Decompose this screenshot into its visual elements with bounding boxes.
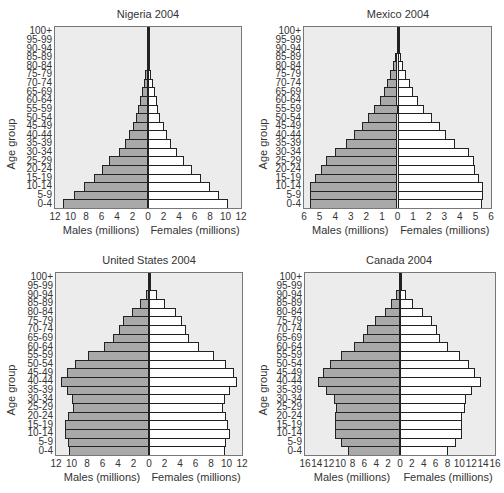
x-tick-label: 6 <box>301 211 307 222</box>
male-bar <box>335 420 400 430</box>
age-group-label: 0-4 <box>287 199 301 209</box>
male-bar <box>341 351 400 361</box>
female-bar <box>148 199 228 209</box>
male-bar <box>390 70 397 80</box>
x-tick-label: 3 <box>348 211 354 222</box>
male-bar <box>68 438 149 448</box>
center-axis-line <box>398 27 399 208</box>
age-group-label: 10-14 <box>276 428 302 438</box>
age-group-label: 95-99 <box>27 281 53 291</box>
age-group-label: 30-34 <box>27 394 53 404</box>
male-bar <box>334 394 401 404</box>
age-group-label: 45-49 <box>27 368 53 378</box>
age-group-label: 30-34 <box>26 147 52 157</box>
age-group-label: 35-39 <box>276 385 302 395</box>
female-bar <box>398 113 432 123</box>
x-tick-label: 0 <box>145 211 151 222</box>
age-group-label: 65-69 <box>27 333 53 343</box>
male-bar <box>362 122 398 132</box>
male-bar <box>125 139 148 149</box>
age-group-label: 50-54 <box>276 359 302 369</box>
male-bar <box>310 182 397 192</box>
chart-title: United States 2004 <box>102 254 196 266</box>
x-tick-label: 4 <box>114 211 120 222</box>
female-bar <box>149 360 226 370</box>
female-bar <box>400 299 413 309</box>
x-axis-title-males: Males (millions) <box>63 224 139 236</box>
male-bar <box>67 386 149 396</box>
age-group-label: 60-64 <box>26 95 52 105</box>
female-bar <box>149 290 157 300</box>
female-bar <box>148 156 184 166</box>
age-group-label: 100+ <box>29 26 52 36</box>
female-bar <box>149 386 230 396</box>
pyramid-panel: United States 20040-45-910-1415-1920-242… <box>0 252 252 493</box>
age-group-label: 70-74 <box>26 78 52 88</box>
age-group-label: 25-29 <box>26 156 52 166</box>
male-bar <box>341 438 400 448</box>
x-tick-label: 8 <box>445 458 451 469</box>
age-group-label: 85-89 <box>27 298 53 308</box>
chart-title: Canada 2004 <box>366 254 432 266</box>
male-bar <box>368 113 398 123</box>
x-tick-label: 2 <box>161 211 167 222</box>
female-bar <box>149 403 223 413</box>
x-tick-label: 16 <box>299 458 310 469</box>
age-group-label: 10-14 <box>27 428 53 438</box>
x-tick-label: 4 <box>421 458 427 469</box>
x-tick-label: 2 <box>426 211 432 222</box>
x-tick-label: 8 <box>84 458 90 469</box>
female-bar <box>400 360 469 370</box>
male-bar <box>138 105 148 115</box>
male-bar <box>348 446 400 456</box>
age-group-label: 40-44 <box>26 130 52 140</box>
male-bar <box>136 113 148 123</box>
age-group-label: 0-4 <box>288 446 302 456</box>
age-group-label: 85-89 <box>26 52 52 62</box>
female-bar <box>398 105 424 115</box>
age-group-label: 15-19 <box>26 173 52 183</box>
male-bar <box>387 79 397 89</box>
age-group-label: 30-34 <box>275 147 301 157</box>
x-tick-label: 6 <box>100 458 106 469</box>
female-bar <box>398 199 482 209</box>
x-tick-label: 2 <box>130 211 136 222</box>
x-tick-label: 6 <box>433 458 439 469</box>
female-bar <box>149 325 186 335</box>
male-bar <box>133 122 149 132</box>
female-bar <box>400 403 465 413</box>
age-group-label: 70-74 <box>27 324 53 334</box>
x-axis-title-males: Males (millions) <box>314 471 390 483</box>
age-group-label: 40-44 <box>27 376 53 386</box>
x-tick-label: 12 <box>466 458 477 469</box>
age-group-label: 25-29 <box>275 156 301 166</box>
male-bar <box>323 368 400 378</box>
age-group-label: 40-44 <box>275 130 301 140</box>
x-tick-label: 6 <box>362 458 368 469</box>
age-group-label: 20-24 <box>26 164 52 174</box>
male-bar <box>119 325 149 335</box>
age-group-label: 55-59 <box>275 104 301 114</box>
plot-area <box>55 272 243 456</box>
x-tick-label: 1 <box>410 211 416 222</box>
female-bar <box>149 420 228 430</box>
age-group-label: 80-84 <box>275 61 301 71</box>
male-bar <box>354 130 398 140</box>
x-tick-label: 8 <box>350 458 356 469</box>
age-group-label: 55-59 <box>26 104 52 114</box>
male-bar <box>67 368 149 378</box>
x-tick-label: 12 <box>236 458 247 469</box>
male-bar <box>374 105 397 115</box>
center-axis-line <box>149 273 150 455</box>
female-bar <box>400 420 462 430</box>
female-bar <box>148 139 171 149</box>
age-group-label: 45-49 <box>26 121 52 131</box>
age-group-label: 50-54 <box>275 113 301 123</box>
x-tick-label: 5 <box>317 211 323 222</box>
male-bar <box>318 377 400 387</box>
female-bar <box>148 105 158 115</box>
x-tick-label: 5 <box>473 211 479 222</box>
x-tick-label: 4 <box>457 211 463 222</box>
age-group-label: 60-64 <box>27 342 53 352</box>
male-bar <box>354 342 400 352</box>
